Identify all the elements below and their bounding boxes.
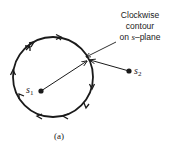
s1-label: s1: [26, 84, 33, 97]
annotation-pointer-arrow: [86, 42, 116, 57]
clockwise-contour: [13, 37, 93, 117]
annotation-prefix: on: [120, 32, 132, 42]
annotation-line-2: contour: [105, 21, 171, 32]
s2-label: s2: [134, 65, 141, 78]
annotation-line-3: on s–plane: [105, 32, 171, 43]
contour-annotation: Clockwise contour on s–plane: [105, 10, 171, 43]
annotation-suffix: –plane: [135, 32, 161, 42]
figure-caption: (a): [54, 131, 64, 141]
s2-subscript: 2: [138, 70, 142, 78]
s1-vector-arrow: [41, 61, 87, 91]
annotation-line-1: Clockwise: [105, 10, 171, 21]
s1-subscript: 1: [30, 89, 34, 97]
contour-direction-arrows: [11, 35, 95, 120]
s2-vector-arrow: [90, 60, 129, 71]
